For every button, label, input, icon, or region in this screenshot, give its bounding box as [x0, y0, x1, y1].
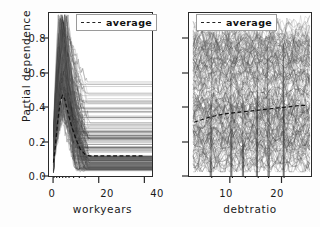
y-tick-marks-left	[42, 12, 49, 178]
x-tick-label-20: 20	[97, 188, 117, 199]
x-tick-label-40: 40	[147, 188, 167, 199]
legend-label-average-right: average	[226, 17, 272, 28]
legend-dash-icon-left	[81, 22, 101, 23]
legend-left: average	[76, 14, 157, 31]
x-tick-marks-left	[48, 177, 154, 187]
x-axis-label-debtratio: debtratio	[190, 203, 310, 215]
ice-curves-debtratio	[189, 13, 311, 176]
plot-panel-workyears	[48, 12, 153, 177]
x-tick-label-20: 20	[267, 188, 287, 199]
legend-dash-icon-right	[201, 22, 221, 23]
plot-panel-debtratio	[188, 12, 312, 177]
x-tick-label-0: 0	[42, 188, 62, 199]
figure-canvas: Partial dependence 0.8 0.6 0.4 0.2 0.0 0…	[0, 0, 320, 227]
x-tick-marks-right	[188, 177, 313, 187]
x-axis-label-workyears: workyears	[50, 203, 155, 215]
x-tick-label-10: 10	[216, 188, 236, 199]
legend-right: average	[196, 14, 277, 31]
ice-curves-workyears	[49, 13, 152, 176]
y-tick-marks-right	[182, 12, 189, 178]
legend-label-average-left: average	[106, 17, 152, 28]
